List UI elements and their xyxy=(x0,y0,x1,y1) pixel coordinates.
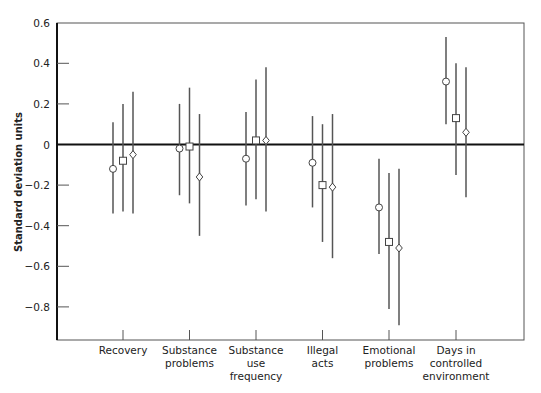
circle-marker xyxy=(110,165,117,172)
diamond-marker xyxy=(463,128,470,136)
x-category-label: Days in controlled environment xyxy=(411,344,501,383)
circle-marker xyxy=(243,155,250,162)
error-bar-circle xyxy=(309,116,316,207)
diamond-marker xyxy=(396,244,403,252)
error-bar-diamond xyxy=(463,67,470,197)
error-bar-circle xyxy=(243,112,250,205)
error-bar-square xyxy=(186,88,193,204)
diamond-marker xyxy=(329,183,336,191)
error-bar-square xyxy=(386,173,393,309)
plot-frame xyxy=(57,23,524,340)
square-marker xyxy=(253,137,260,144)
y-tick-label: −0.4 xyxy=(10,220,50,232)
square-marker xyxy=(453,115,460,122)
square-marker xyxy=(319,182,326,189)
y-tick-label: −0.6 xyxy=(10,260,50,272)
chart-canvas xyxy=(0,0,541,393)
error-bar-circle xyxy=(110,122,117,213)
error-bar-square xyxy=(453,63,460,175)
y-tick-label: 0.4 xyxy=(10,57,50,69)
error-bar-circle xyxy=(376,159,383,254)
x-tick-marks xyxy=(123,330,456,340)
y-tick-label: 0.6 xyxy=(10,17,50,29)
y-tick-label: −0.8 xyxy=(10,301,50,313)
circle-marker xyxy=(176,145,183,152)
error-bar-square xyxy=(319,124,326,242)
y-tick-label: 0 xyxy=(10,139,50,151)
error-bar-circle xyxy=(176,104,183,195)
error-bar-diamond xyxy=(130,92,137,214)
y-tick-marks xyxy=(57,63,69,307)
diamond-marker xyxy=(263,136,270,144)
square-marker xyxy=(120,157,127,164)
error-bar-circle xyxy=(443,37,450,124)
y-tick-label: −0.2 xyxy=(10,179,50,191)
error-bar-square xyxy=(120,104,127,212)
error-bars xyxy=(110,37,470,325)
error-bar-diamond xyxy=(263,67,270,211)
circle-marker xyxy=(309,159,316,166)
diamond-marker xyxy=(196,173,203,181)
diamond-marker xyxy=(130,151,137,159)
square-marker xyxy=(186,143,193,150)
circle-marker xyxy=(376,204,383,211)
circle-marker xyxy=(443,78,450,85)
error-bar-square xyxy=(253,80,260,200)
error-bar-diamond xyxy=(196,114,203,236)
square-marker xyxy=(386,238,393,245)
y-tick-label: 0.2 xyxy=(10,98,50,110)
error-bar-diamond xyxy=(329,114,336,258)
error-bar-diamond xyxy=(396,169,403,325)
